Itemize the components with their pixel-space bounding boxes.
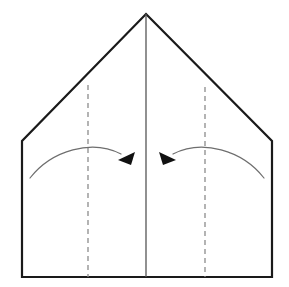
origami-fold-diagram: Origami fold step diagram Pentagon house… bbox=[0, 0, 289, 287]
fold-diagram-canvas: Origami fold step diagram Pentagon house… bbox=[0, 0, 289, 287]
diagram-background bbox=[0, 0, 289, 287]
